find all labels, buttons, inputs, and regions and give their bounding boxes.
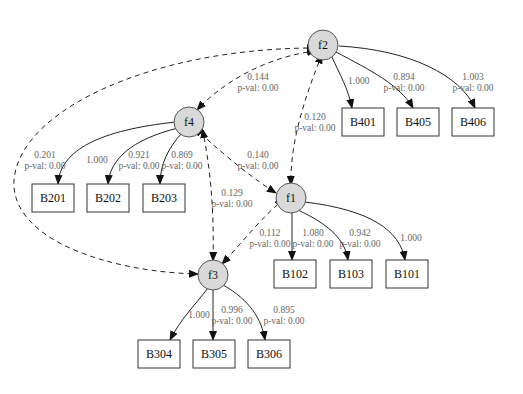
- edge-label-f2-B401: 1.000: [348, 76, 370, 86]
- observed-node-B405[interactable]: B405: [397, 108, 439, 136]
- observed-node-B102[interactable]: B102: [274, 260, 316, 288]
- svg-text:0.895: 0.895: [273, 305, 295, 315]
- edge-label-cov-f4-f3: 0.129 p-val: 0.00: [211, 188, 252, 209]
- svg-text:p-val: 0.00: p-val: 0.00: [339, 239, 380, 249]
- svg-text:1.000: 1.000: [86, 155, 108, 165]
- svg-text:p-val: 0.00: p-val: 0.00: [383, 83, 424, 93]
- observed-node-B202[interactable]: B202: [87, 184, 129, 212]
- latent-node-f3[interactable]: f3: [198, 260, 228, 290]
- svg-text:0.144: 0.144: [247, 72, 269, 82]
- svg-text:B203: B203: [151, 191, 177, 205]
- svg-text:B401: B401: [350, 115, 376, 129]
- svg-text:B406: B406: [460, 115, 486, 129]
- latent-node-f4[interactable]: f4: [174, 107, 204, 137]
- svg-text:f1: f1: [286, 191, 296, 205]
- edge-label-f3-B304: 1.000: [188, 310, 210, 320]
- edge-label-cov-f4-f1: 0.140 p-val: 0.00: [237, 150, 278, 171]
- latent-node-f1[interactable]: f1: [276, 183, 306, 213]
- edge-label-f1-B103: 0.942 p-val: 0.00: [339, 228, 380, 249]
- svg-text:p-val: 0.00: p-val: 0.00: [237, 83, 278, 93]
- svg-text:0.894: 0.894: [393, 72, 415, 82]
- svg-text:B306: B306: [256, 347, 282, 361]
- svg-text:f2: f2: [318, 38, 328, 52]
- edge-label-f1-B101: 1.000: [400, 233, 422, 243]
- svg-text:p-val: 0.00: p-val: 0.00: [292, 239, 333, 249]
- edge-label-cov-f2-f4: 0.144 p-val: 0.00: [237, 72, 278, 93]
- svg-text:B201: B201: [40, 191, 66, 205]
- svg-text:p-val: 0.00: p-val: 0.00: [452, 83, 493, 93]
- svg-text:B405: B405: [405, 115, 431, 129]
- svg-text:p-val: 0.00: p-val: 0.00: [211, 199, 252, 209]
- svg-text:1.000: 1.000: [400, 233, 422, 243]
- edge-label-f3-B305: 0.996 p-val: 0.00: [211, 305, 252, 326]
- svg-text:1.000: 1.000: [188, 310, 210, 320]
- edge-label-cov-f1-f3: 0.112 p-val: 0.00: [249, 228, 290, 249]
- svg-text:B304: B304: [146, 347, 172, 361]
- svg-text:B102: B102: [282, 267, 308, 281]
- svg-text:0.996: 0.996: [221, 305, 243, 315]
- svg-text:0.201: 0.201: [34, 150, 56, 160]
- svg-text:p-val: 0.00: p-val: 0.00: [237, 161, 278, 171]
- svg-text:1.003: 1.003: [462, 72, 484, 82]
- svg-text:0.129: 0.129: [221, 188, 243, 198]
- sem-path-diagram: f2 f4 f1 f3 B401 B405 B406 B201 B202 B20…: [0, 0, 523, 394]
- edge-label-f4-B201: 0.201 p-val: 0.00: [24, 150, 65, 171]
- observed-node-B201[interactable]: B201: [32, 184, 74, 212]
- svg-text:1.080: 1.080: [302, 228, 324, 238]
- svg-text:B305: B305: [201, 347, 227, 361]
- latent-node-f2[interactable]: f2: [308, 30, 338, 60]
- observed-node-B304[interactable]: B304: [138, 340, 180, 368]
- svg-text:0.112: 0.112: [259, 228, 280, 238]
- svg-text:p-val: 0.00: p-val: 0.00: [161, 161, 202, 171]
- svg-text:p-val: 0.00: p-val: 0.00: [24, 161, 65, 171]
- edge-label-f1-B102: 1.080 p-val: 0.00: [292, 228, 333, 249]
- edge-label-f2-B406: 1.003 p-val: 0.00: [452, 72, 493, 93]
- observed-node-B401[interactable]: B401: [342, 108, 384, 136]
- svg-text:0.942: 0.942: [349, 228, 371, 238]
- edge-label-f2-B405: 0.894 p-val: 0.00: [383, 72, 424, 93]
- svg-text:B101: B101: [394, 267, 420, 281]
- observed-node-B406[interactable]: B406: [452, 108, 494, 136]
- observed-node-B101[interactable]: B101: [386, 260, 428, 288]
- svg-text:1.000: 1.000: [348, 76, 370, 86]
- edge-label-f3-B306: 0.895 p-val: 0.00: [263, 305, 304, 326]
- svg-text:f3: f3: [208, 268, 218, 282]
- svg-text:0.869: 0.869: [171, 150, 193, 160]
- svg-text:0.120: 0.120: [304, 112, 326, 122]
- svg-text:p-val: 0.00: p-val: 0.00: [211, 316, 252, 326]
- loading-f4-B201: [58, 122, 176, 184]
- svg-text:B202: B202: [95, 191, 121, 205]
- observed-node-B306[interactable]: B306: [248, 340, 290, 368]
- svg-text:f4: f4: [184, 115, 194, 129]
- svg-text:p-val: 0.00: p-val: 0.00: [118, 161, 159, 171]
- edge-label-f4-B202: 1.000: [86, 155, 108, 165]
- svg-text:p-val: 0.00: p-val: 0.00: [249, 239, 290, 249]
- svg-text:0.921: 0.921: [128, 150, 150, 160]
- observed-node-B203[interactable]: B203: [143, 184, 185, 212]
- svg-text:p-val: 0.00: p-val: 0.00: [294, 123, 335, 133]
- observed-node-B305[interactable]: B305: [193, 340, 235, 368]
- svg-text:0.140: 0.140: [247, 150, 269, 160]
- edge-label-f4-B203a: 0.921 p-val: 0.00: [118, 150, 159, 171]
- svg-text:B103: B103: [338, 267, 364, 281]
- observed-node-B103[interactable]: B103: [330, 260, 372, 288]
- svg-text:p-val: 0.00: p-val: 0.00: [263, 316, 304, 326]
